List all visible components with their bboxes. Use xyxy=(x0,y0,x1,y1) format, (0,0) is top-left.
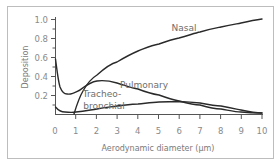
x-tick-0: 0 xyxy=(52,126,57,136)
x-tick-6: 6 xyxy=(176,126,181,136)
x-axis-title: Aerodynamic diameter (µm) xyxy=(102,144,215,153)
x-tick-8: 8 xyxy=(218,126,223,136)
x-tick-3: 3 xyxy=(114,126,119,136)
x-tick-labels: 0 1 2 3 4 5 6 7 8 9 10 xyxy=(52,126,267,136)
tracheo-label-line1: Tracheo- xyxy=(82,89,122,99)
nasal-label: Nasal xyxy=(172,23,197,33)
y-axis-title: Deposition xyxy=(21,46,30,89)
x-tick-10: 10 xyxy=(257,126,268,136)
x-axis xyxy=(55,115,263,120)
x-tick-5: 5 xyxy=(156,126,161,136)
pulmonary-label: Pulmonary xyxy=(120,80,169,90)
y-tick-1.0: 1.0 xyxy=(34,15,48,25)
x-tick-4: 4 xyxy=(135,126,140,136)
nasal-curve xyxy=(74,19,262,114)
y-tick-0.4: 0.4 xyxy=(34,72,48,82)
x-tick-2: 2 xyxy=(94,126,99,136)
y-tick-labels: 0.2 0.4 0.6 0.8 1.0 xyxy=(34,15,48,101)
y-tick-0.8: 0.8 xyxy=(34,34,48,44)
y-tick-0.2: 0.2 xyxy=(34,91,48,101)
y-tick-0.6: 0.6 xyxy=(34,53,48,63)
x-tick-1: 1 xyxy=(73,126,78,136)
deposition-chart: 0.2 0.4 0.6 0.8 1.0 0 1 2 3 4 5 6 7 8 9 … xyxy=(0,0,279,167)
x-tick-7: 7 xyxy=(197,126,202,136)
tracheo-label-line2: bronchial xyxy=(83,101,125,111)
y-axis xyxy=(51,17,56,115)
x-tick-9: 9 xyxy=(239,126,244,136)
